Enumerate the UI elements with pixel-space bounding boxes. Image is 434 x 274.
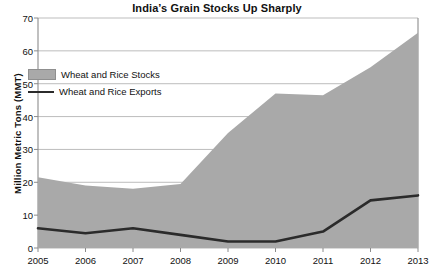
legend-item-wheat-and-rice-exports: Wheat and Rice Exports <box>28 83 161 100</box>
legend-item-wheat-and-rice-stocks: Wheat and Rice Stocks <box>28 66 161 83</box>
chart-svg <box>38 18 418 248</box>
x-axis-tick-label: 2013 <box>407 255 428 266</box>
x-axis-tick-label: 2008 <box>170 255 191 266</box>
plot-area: 010203040506070 200520062007200820092010… <box>38 18 418 248</box>
y-axis-tick-label: 40 <box>22 111 33 122</box>
legend-label-stocks: Wheat and Rice Stocks <box>61 69 160 80</box>
x-axis-tick-label: 2011 <box>313 255 333 266</box>
y-axis-tick-label: 20 <box>22 177 33 188</box>
chart-title: India’s Grain Stocks Up Sharply <box>0 2 434 14</box>
chart-legend: Wheat and Rice Stocks Wheat and Rice Exp… <box>28 66 161 100</box>
x-axis-tick-label: 2005 <box>27 255 48 266</box>
x-axis-tick-label: 2007 <box>122 255 143 266</box>
y-axis-label: Million Metric Tons (MMT) <box>12 54 23 214</box>
y-axis-tick-label: 60 <box>22 45 33 56</box>
legend-swatch-line-icon <box>28 91 54 93</box>
x-axis-tick-label: 2010 <box>265 255 286 266</box>
x-axis-tick-label: 2012 <box>360 255 381 266</box>
x-axis-tick-label: 2006 <box>75 255 96 266</box>
y-axis-tick-label: 70 <box>22 13 33 24</box>
y-axis-tick-label: 10 <box>22 210 33 221</box>
legend-swatch-area-icon <box>28 69 56 80</box>
y-axis-tick-label: 30 <box>22 144 33 155</box>
x-axis-tick-label: 2009 <box>217 255 238 266</box>
y-axis-tick-label: 0 <box>28 243 33 254</box>
legend-label-exports: Wheat and Rice Exports <box>59 86 161 97</box>
chart-container: India’s Grain Stocks Up Sharply Million … <box>0 0 434 274</box>
